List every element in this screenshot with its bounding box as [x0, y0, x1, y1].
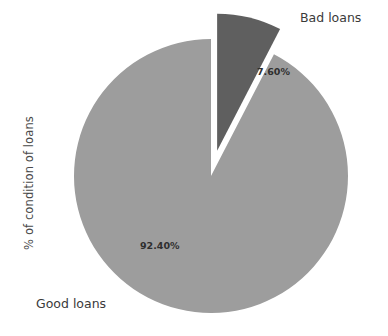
pie-label-good-loans: Good loans [36, 296, 106, 311]
pie-value-bad-loans: 7.60% [257, 66, 290, 77]
pie-value-good-loans: 92.40% [140, 240, 180, 251]
pie-chart-canvas [0, 0, 388, 336]
pie-label-bad-loans: Bad loans [300, 10, 361, 25]
pie-slice-good-loans[interactable] [74, 39, 348, 313]
y-axis-label: % of condition of loans [22, 88, 36, 278]
pie-chart: % of condition of loans Bad loans Good l… [0, 0, 388, 336]
